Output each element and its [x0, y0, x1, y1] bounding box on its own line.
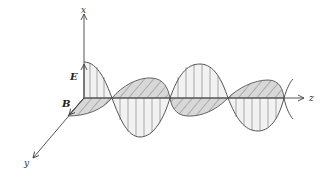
x-axis-label: x	[81, 5, 86, 15]
y-axis-label: y	[23, 158, 30, 168]
z-axis-label: z	[308, 93, 314, 103]
electric-field-label: E	[69, 71, 78, 82]
magnetic-field-label: B	[61, 98, 70, 109]
em-wave-diagram: x z y E B	[0, 0, 329, 174]
wave-continuation-curve	[284, 98, 293, 119]
